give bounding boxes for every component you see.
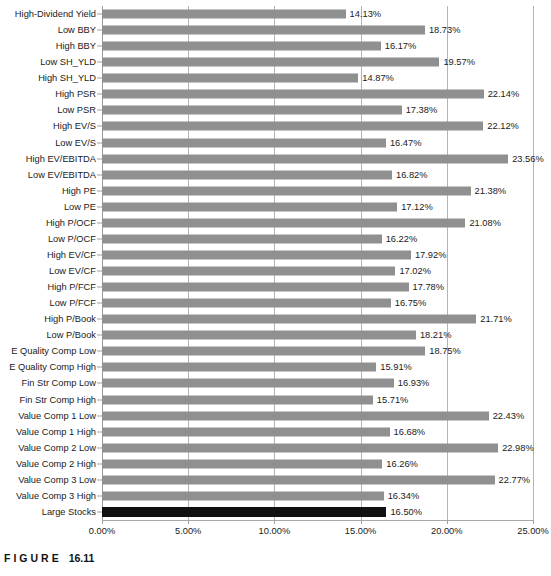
bar (102, 315, 476, 324)
bar-value-label: 22.12% (487, 121, 519, 132)
category-label: Value Comp 1 Low (0, 410, 96, 421)
bar (102, 218, 465, 227)
bar-value-label: 16.68% (394, 426, 426, 437)
chart-row: Low PE17.12% (0, 199, 551, 215)
chart-row: High-Dividend Yield14.13% (0, 6, 551, 22)
chart-row: Value Comp 2 High16.26% (0, 456, 551, 472)
chart-row: Low P/Book18.21% (0, 327, 551, 343)
bar-value-label: 16.34% (388, 490, 420, 501)
chart-row: Fin Str Comp Low16.93% (0, 375, 551, 391)
category-label: High EV/S (0, 121, 96, 132)
category-label: Value Comp 2 High (0, 458, 96, 469)
bar-value-label: 17.38% (406, 105, 438, 116)
chart-row: Large Stocks16.50% (0, 504, 551, 520)
category-label: Low BBY (0, 25, 96, 36)
category-label: E Quality Comp Low (0, 346, 96, 357)
chart-row: Low P/OCF16.22% (0, 231, 551, 247)
chart-row: Low EV/EBITDA16.82% (0, 167, 551, 183)
bar-value-label: 17.78% (413, 282, 445, 293)
bar-value-label: 22.98% (502, 442, 534, 453)
bar (102, 507, 386, 517)
chart-row: High P/FCF17.78% (0, 279, 551, 295)
bar (102, 443, 498, 452)
bar (102, 186, 471, 195)
bar-value-label: 15.91% (380, 362, 412, 373)
bar-value-label: 14.87% (362, 73, 394, 84)
bar-chart: High-Dividend Yield14.13%Low BBY18.73%Hi… (0, 0, 551, 540)
bar (102, 10, 346, 19)
bar-value-label: 18.73% (429, 25, 461, 36)
chart-rows: High-Dividend Yield14.13%Low BBY18.73%Hi… (0, 6, 551, 520)
figure-caption: FIGURE16.11 (4, 552, 94, 564)
x-axis-tick-label: 15.00% (345, 526, 377, 537)
category-label: High SH_YLD (0, 73, 96, 84)
bar (102, 427, 390, 436)
category-label: High EV/CF (0, 249, 96, 260)
bar-value-label: 19.57% (443, 57, 475, 68)
category-label: Low P/FCF (0, 298, 96, 309)
x-axis-tick-label: 10.00% (259, 526, 291, 537)
x-axis-tick (447, 520, 448, 524)
category-label: Large Stocks (0, 506, 96, 517)
category-label: Value Comp 3 High (0, 490, 96, 501)
category-label: Low P/OCF (0, 233, 96, 244)
category-label: High P/Book (0, 314, 96, 325)
x-axis-tick (533, 520, 534, 524)
bar (102, 267, 395, 276)
bar (102, 58, 439, 67)
bar-value-label: 17.12% (401, 201, 433, 212)
x-axis-tick (188, 520, 189, 524)
bar (102, 202, 397, 211)
category-label: Value Comp 3 Low (0, 474, 96, 485)
category-label: High P/FCF (0, 282, 96, 293)
bar (102, 411, 489, 420)
x-axis-tick (274, 520, 275, 524)
chart-row: High PE21.38% (0, 183, 551, 199)
figure-caption-word: FIGURE (4, 552, 62, 564)
bar (102, 475, 495, 484)
bar-value-label: 18.21% (420, 330, 452, 341)
chart-row: High EV/CF17.92% (0, 247, 551, 263)
bar (102, 299, 391, 308)
bar-value-label: 21.08% (469, 217, 501, 228)
chart-row: Fin Str Comp High15.71% (0, 392, 551, 408)
bar-value-label: 14.13% (350, 9, 382, 20)
bar (102, 138, 386, 147)
bar (102, 42, 381, 51)
bar (102, 234, 382, 243)
bar (102, 170, 392, 179)
chart-row: High BBY16.17% (0, 38, 551, 54)
bar (102, 459, 382, 468)
bar (102, 331, 416, 340)
chart-row: Low SH_YLD19.57% (0, 54, 551, 70)
bar-value-label: 16.75% (395, 298, 427, 309)
bar-value-label: 16.47% (390, 137, 422, 148)
bar-value-label: 16.26% (386, 458, 418, 469)
chart-row: High SH_YLD14.87% (0, 70, 551, 86)
x-axis-tick-label: 25.00% (517, 526, 549, 537)
x-axis-tick-label: 0.00% (89, 526, 115, 537)
x-axis-tick (361, 520, 362, 524)
category-label: Fin Str Comp Low (0, 378, 96, 389)
category-label: E Quality Comp High (0, 362, 96, 373)
bar-value-label: 15.71% (377, 394, 409, 405)
category-label: Low EV/EBITDA (0, 169, 96, 180)
category-label: Fin Str Comp High (0, 394, 96, 405)
bar-value-label: 17.92% (415, 249, 447, 260)
figure-caption-number: 16.11 (69, 552, 95, 564)
x-axis: 0.00%5.00%10.00%15.00%20.00%25.00% (0, 520, 551, 540)
category-label: Low EV/CF (0, 266, 96, 277)
chart-row: Value Comp 3 High16.34% (0, 488, 551, 504)
category-label: High EV/EBITDA (0, 153, 96, 164)
x-axis-tick (102, 520, 103, 524)
bar (102, 379, 394, 388)
x-axis-tick-label: 20.00% (431, 526, 463, 537)
bar-value-label: 16.17% (385, 41, 417, 52)
bar-value-label: 23.56% (512, 153, 544, 164)
bar-value-label: 16.93% (398, 378, 430, 389)
category-label: High PSR (0, 89, 96, 100)
bar (102, 106, 402, 115)
bar (102, 363, 376, 372)
chart-row: E Quality Comp Low18.75% (0, 343, 551, 359)
bar (102, 26, 425, 35)
